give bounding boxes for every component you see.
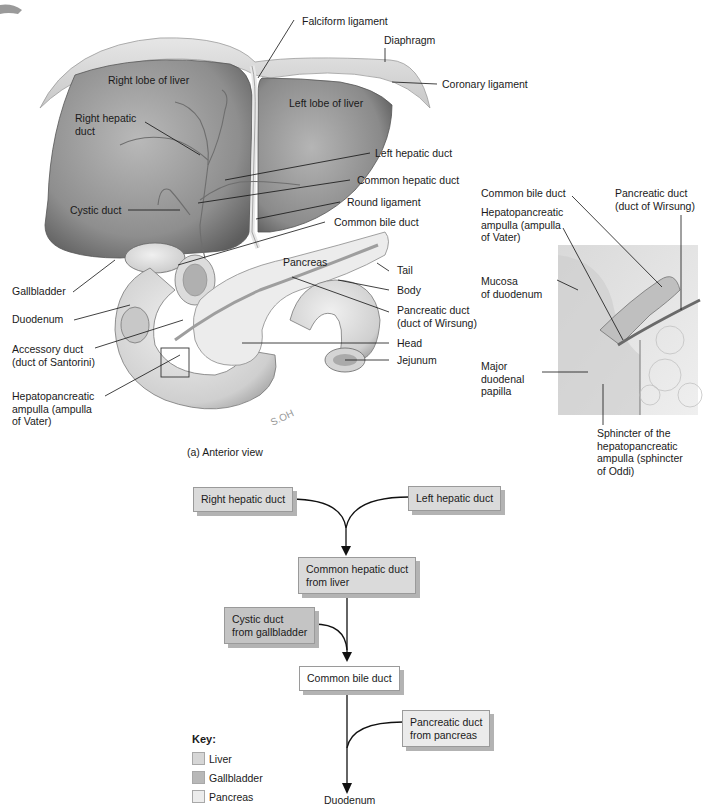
label-right-hepatic-duct: Right hepatic duct <box>75 112 136 137</box>
label-jejunum: Jejunum <box>397 354 437 367</box>
flow-node-left-hepatic-duct: Left hepatic duct <box>408 486 501 511</box>
corner-tab-icon <box>0 5 22 14</box>
label-head: Head <box>397 337 422 350</box>
inset-label-common-bile-duct: Common bile duct <box>481 187 566 200</box>
label-accessory-duct: Accessory duct (duct of Santorini) <box>12 343 95 368</box>
key-item-pancreas: Pancreas <box>192 790 253 803</box>
right-lobe-shape <box>45 60 252 258</box>
key-item-gallbladder: Gallbladder <box>192 771 263 784</box>
panel-a-caption: (a) Anterior view <box>187 446 263 459</box>
label-falciform-ligament: Falciform ligament <box>302 15 388 28</box>
label-coronary-ligament: Coronary ligament <box>442 78 528 91</box>
key-item-liver: Liver <box>192 752 232 765</box>
label-body: Body <box>397 284 421 297</box>
inset-label-hepatopancreatic-ampulla: Hepatopancreatic ampulla (ampulla of Vat… <box>481 206 563 244</box>
key-label-pancreas: Pancreas <box>209 791 253 803</box>
label-gallbladder: Gallbladder <box>12 285 66 298</box>
jejunum-shape <box>290 280 380 360</box>
flow-node-common-bile-duct: Common bile duct <box>299 666 400 691</box>
inset-label-mucosa-of-duodenum: Mucosa of duodenum <box>481 275 542 300</box>
key-label-liver: Liver <box>209 753 232 765</box>
inset-label-pancreatic-duct: Pancreatic duct (duct of Wirsung) <box>615 187 695 212</box>
flow-node-duodenum: Duodenum <box>324 794 375 807</box>
label-tail: Tail <box>397 264 413 277</box>
inset-label-major-duodenal-papilla: Major duodenal papilla <box>481 360 524 398</box>
label-right-lobe-of-liver: Right lobe of liver <box>108 74 189 87</box>
gallbladder-shape <box>125 243 185 273</box>
key-title: Key: <box>192 733 216 745</box>
pancreas-swatch <box>192 790 205 803</box>
label-left-lobe-of-liver: Left lobe of liver <box>289 97 363 110</box>
label-hepatopancreatic-ampulla: Hepatopancreatic ampulla (ampulla of Vat… <box>12 390 94 428</box>
flow-node-pancreatic-duct: Pancreatic duct from pancreas <box>402 710 490 747</box>
label-diaphragm: Diaphragm <box>384 34 435 47</box>
label-cystic-duct: Cystic duct <box>70 204 121 217</box>
liver-swatch <box>192 752 205 765</box>
flow-node-right-hepatic-duct: Right hepatic duct <box>193 487 293 512</box>
label-pancreatic-duct: Pancreatic duct (duct of Wirsung) <box>397 304 477 329</box>
label-round-ligament: Round ligament <box>347 196 421 209</box>
label-common-bile-duct: Common bile duct <box>334 216 419 229</box>
inset-label-sphincter-of-oddi: Sphincter of the hepatopancreatic ampull… <box>597 427 683 477</box>
key-label-gallbladder: Gallbladder <box>209 772 263 784</box>
label-pancreas: Pancreas <box>283 256 327 269</box>
label-common-hepatic-duct: Common hepatic duct <box>357 174 459 187</box>
flow-node-cystic-duct: Cystic duct from gallbladder <box>224 607 315 644</box>
flow-node-common-hepatic-duct: Common hepatic duct from liver <box>298 557 416 594</box>
label-left-hepatic-duct: Left hepatic duct <box>375 147 452 160</box>
inset-illustration <box>558 245 702 415</box>
gallbladder-swatch <box>192 771 205 784</box>
label-duodenum: Duodenum <box>12 313 63 326</box>
